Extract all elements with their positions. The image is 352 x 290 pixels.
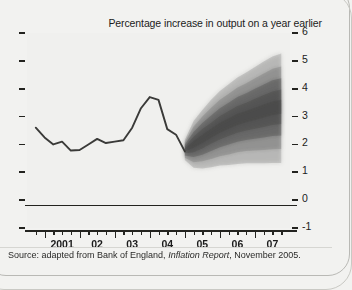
x-tick-2007.25 [264, 231, 265, 235]
x-tick-2004.00 [150, 231, 151, 238]
y-tick-right--1 [292, 227, 298, 229]
y-tick-left-5 [19, 60, 25, 62]
x-tick-2006.00 [220, 231, 221, 238]
source-note: Source: adapted from Bank of England, In… [8, 250, 301, 260]
source-divider [0, 247, 332, 248]
y-tick-right-3 [292, 116, 298, 118]
y-axis-label-5: 5 [302, 53, 308, 65]
x-tick-2005.50 [202, 231, 203, 235]
y-axis-label-2: 2 [302, 136, 308, 148]
chart-title: Percentage increase in output on a year … [0, 17, 322, 29]
y-axis-label-6: 6 [302, 25, 308, 37]
y-tick-left--1 [19, 227, 25, 229]
plot-area [27, 33, 290, 228]
source-prefix: Source: adapted from Bank of England, [8, 250, 166, 260]
x-tick-2001.50 [62, 231, 63, 235]
y-tick-left-3 [19, 116, 25, 118]
source-suffix: , November 2005. [229, 250, 301, 260]
x-axis-label-04: 04 [161, 238, 173, 250]
x-tick-2004.75 [176, 231, 177, 235]
y-tick-right-1 [292, 171, 298, 173]
x-tick-2007.50 [272, 231, 273, 235]
y-axis-label-3: 3 [302, 109, 308, 121]
x-axis-label-06: 06 [232, 238, 244, 250]
y-tick-right-4 [292, 88, 298, 90]
x-tick-2003.50 [132, 231, 133, 235]
x-tick-2002.00 [80, 231, 81, 238]
y-tick-left-6 [19, 32, 25, 34]
x-axis-label-2001: 2001 [50, 238, 73, 250]
x-axis-label-03: 03 [126, 238, 138, 250]
x-tick-2002.25 [88, 231, 89, 235]
y-axis-label-0: 0 [302, 192, 308, 204]
x-tick-2005.25 [194, 231, 195, 235]
source-publication: Inflation Report [168, 250, 229, 260]
x-tick-2004.50 [167, 231, 168, 235]
x-tick-2001.00 [45, 231, 46, 238]
y-axis-label-4: 4 [302, 81, 308, 93]
y-tick-right-0 [292, 199, 298, 201]
x-axis-label-07: 07 [267, 238, 279, 250]
x-tick-2000.75 [36, 231, 37, 235]
y-tick-right-2 [292, 144, 298, 146]
x-tick-2001.75 [71, 231, 72, 235]
x-tick-2001.25 [53, 231, 54, 235]
y-tick-right-6 [292, 32, 298, 34]
x-tick-2005.00 [185, 231, 186, 238]
y-axis-label--1: -1 [302, 220, 311, 232]
y-tick-left-1 [19, 171, 25, 173]
y-tick-left-0 [19, 199, 25, 201]
x-tick-2003.25 [123, 231, 124, 235]
chart-plot-canvas [27, 33, 290, 228]
y-tick-left-2 [19, 144, 25, 146]
x-tick-2006.75 [246, 231, 247, 235]
y-axis-label-1: 1 [302, 164, 308, 176]
x-tick-2004.25 [159, 231, 160, 235]
x-tick-2003.00 [115, 231, 116, 238]
zero-baseline [25, 205, 297, 207]
y-tick-left-4 [19, 88, 25, 90]
x-tick-2007.75 [281, 231, 282, 235]
x-tick-2006.25 [229, 231, 230, 235]
x-tick-2002.50 [97, 231, 98, 235]
x-axis-label-05: 05 [196, 238, 208, 250]
x-tick-2006.50 [237, 231, 238, 235]
x-axis-label-02: 02 [91, 238, 103, 250]
x-tick-2007.00 [255, 231, 256, 238]
y-tick-right-5 [292, 60, 298, 62]
x-tick-2002.75 [106, 231, 107, 235]
x-tick-2003.75 [141, 231, 142, 235]
x-tick-2005.75 [211, 231, 212, 235]
